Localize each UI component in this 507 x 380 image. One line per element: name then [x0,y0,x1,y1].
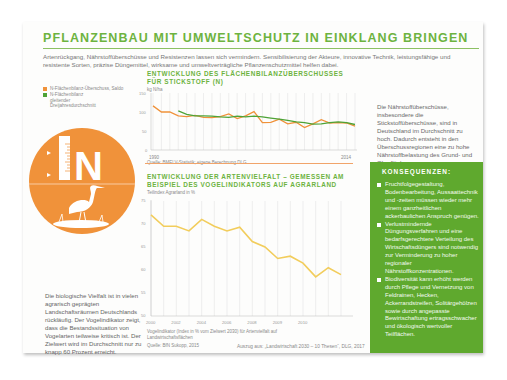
bird-line-chart: 757065 605550 20002002200420062008200920… [135,196,355,336]
legend-item-average: N-Flächenbilanz gleitender Dreijahresdur… [43,92,123,108]
consequence-text: Fruchtfolgegestaltung, Bodenbearbeitung,… [385,181,479,219]
legend-label: N-Flächenbilanz-Überschuss, Saldo [50,86,123,91]
svg-text:60: 60 [141,267,146,272]
nutrient-text: Die Nährstoffüberschüsse, insbesondere d… [377,103,473,167]
page-title: PFLANZENBAU MIT UMWELTSCHUTZ IN EINKLANG… [43,31,468,45]
svg-text:65: 65 [141,244,146,249]
legend-item-saldo: N-Flächenbilanz-Überschuss, Saldo [43,86,123,91]
nitrogen-chart-title: ENTWICKLUNG DES FLÄCHENBILANZÜBERSCHUSSE… [147,70,357,86]
consequences-list: Fruchtfolgegestaltung, Bodenbearbeitung,… [376,181,480,339]
bullet-icon [377,278,381,282]
bird-y-label: Teilindex Agrarland in % [147,190,195,195]
consequence-item: Biodiversität kann erhöht werden durch P… [376,276,480,339]
svg-text:150: 150 [139,92,146,96]
consequences-box: KONSEQUENZEN: Fruchtfolgegestaltung, Bod… [370,162,483,353]
emblem: N [29,128,135,234]
svg-text:75: 75 [141,198,146,203]
legend-swatch-green [43,93,47,97]
emblem-letter: N [74,144,103,188]
bullet-icon [377,183,381,187]
svg-text:2002: 2002 [171,320,181,325]
section-divider [145,163,353,164]
bullet-icon [377,223,381,227]
consequences-heading: KONSEQUENZEN: [382,168,451,175]
svg-text:2006: 2006 [222,320,232,325]
consequence-item: Fruchtfolgegestaltung, Bodenbearbeitung,… [376,181,480,221]
bird-chart-title: ENTWICKLUNG DER ARTENVIELFALT – GEMESSEN… [147,173,347,189]
biodiversity-text: Die biologische Vielfalt ist in vielen a… [45,292,145,356]
intro-text: Artenrückgang, Nährstoffüberschüsse und … [43,53,473,69]
svg-text:70: 70 [141,221,146,226]
legend-label: N-Flächenbilanz gleitender Dreijahresdur… [50,92,102,108]
svg-text:50: 50 [142,129,147,134]
bird-source: Quelle: BfN Sukopp, 2015 [147,343,199,349]
svg-text:0: 0 [145,148,148,153]
footer-credit: Auszug aus: „Landwirtschaft 2030 – 10 Th… [237,344,365,349]
consequence-text: Biodiversität kann erhöht werden durch P… [385,276,477,337]
nitrogen-x-end: 2014 [341,155,351,160]
svg-text:2008: 2008 [247,320,257,325]
chart-grid [151,201,341,316]
svg-text:2010: 2010 [298,320,308,325]
nitrogen-line-chart: 150100500 [135,92,359,154]
title-divider [43,48,479,49]
svg-text:2000: 2000 [146,320,156,325]
consequence-text: Verlustmindernde Düngungsverfahren und e… [385,221,478,274]
svg-text:55: 55 [141,290,146,295]
chart-legend: N-Flächenbilanz-Überschuss, Saldo N-Fläc… [43,86,123,110]
svg-text:100: 100 [139,110,146,115]
svg-text:2004: 2004 [197,320,207,325]
svg-text:50: 50 [141,313,146,318]
bird-indicator-line [151,215,341,277]
legend-swatch-orange [43,87,47,91]
svg-text:2009: 2009 [273,320,283,325]
bird-note: Vogelindikator (Index in % vom Zielwert … [147,329,297,340]
consequence-item: Verlustmindernde Düngungsverfahren und e… [376,221,480,276]
